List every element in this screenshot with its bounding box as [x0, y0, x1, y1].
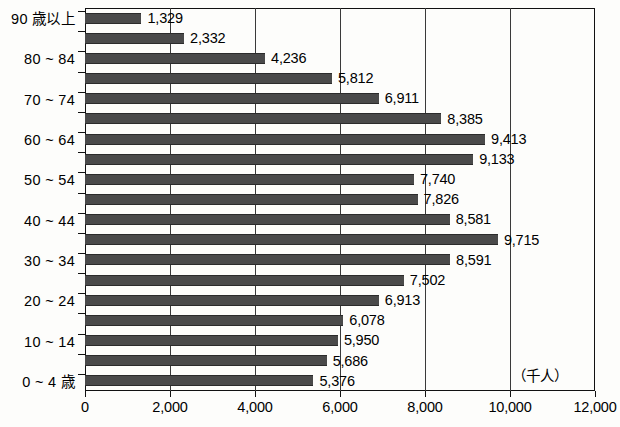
x-axis-label: 6,000: [322, 400, 357, 415]
bar-value-label: 5,376: [319, 374, 354, 389]
bar: [85, 295, 379, 306]
bar-row: 9,715: [85, 230, 620, 250]
bar-row: 7,740: [85, 169, 620, 189]
bar-value-label: 7,502: [410, 273, 445, 288]
bar: [85, 174, 414, 185]
y-axis-label: 50 ~ 54: [24, 173, 75, 188]
x-axis-tick: [170, 391, 171, 397]
bar: [85, 134, 485, 145]
y-axis-tick: [78, 374, 85, 375]
x-axis-tick: [510, 391, 511, 397]
bar: [85, 53, 265, 64]
bar-value-label: 8,385: [447, 112, 482, 127]
bar-row: 6,911: [85, 89, 620, 109]
bar-value-label: 7,740: [420, 172, 455, 187]
y-axis-label: 80 ~ 84: [24, 52, 75, 67]
bar-value-label: 5,686: [333, 354, 368, 369]
bar-value-label: 9,133: [479, 152, 514, 167]
bar: [85, 335, 338, 346]
bar: [85, 254, 450, 265]
bar-row: 4,236: [85, 48, 620, 68]
y-axis-tick: [78, 11, 85, 12]
y-axis-tick: [78, 72, 85, 73]
unit-annotation: （千人）: [512, 369, 568, 384]
y-axis-tick: [78, 92, 85, 93]
bar-value-label: 6,911: [385, 91, 419, 106]
y-axis-tick: [78, 112, 85, 113]
bar-value-label: 9,715: [504, 233, 539, 248]
bar-row: 7,502: [85, 270, 620, 290]
y-axis-tick: [78, 31, 85, 32]
bar: [85, 154, 473, 165]
x-axis-label: 2,000: [152, 400, 187, 415]
bar-value-label: 4,236: [271, 51, 306, 66]
bar: [85, 113, 441, 124]
bar: [85, 355, 327, 366]
x-axis-label: 4,000: [237, 400, 272, 415]
bar-row: 6,078: [85, 310, 620, 330]
x-axis-tick: [425, 391, 426, 397]
y-axis-tick: [78, 193, 85, 194]
bar: [85, 13, 141, 24]
bar: [85, 214, 450, 225]
bar-row: 8,591: [85, 250, 620, 270]
y-axis-tick: [78, 132, 85, 133]
y-axis-tick: [78, 293, 85, 294]
bar-row: 1,329: [85, 8, 620, 28]
x-axis-tick: [255, 391, 256, 397]
bar-value-label: 9,413: [491, 132, 526, 147]
bar-row: 5,950: [85, 331, 620, 351]
x-axis-tick: [85, 391, 86, 397]
y-axis-tick: [78, 354, 85, 355]
bars-layer: 1,3292,3324,2365,8126,9118,3859,4139,133…: [85, 8, 595, 391]
bar: [85, 275, 404, 286]
y-axis-label: 60 ~ 64: [24, 133, 75, 148]
bar: [85, 33, 184, 44]
x-axis-label: 12,000: [573, 400, 616, 415]
y-axis-tick: [78, 334, 85, 335]
bar-row: 7,826: [85, 189, 620, 209]
y-axis-label: 0 ~ 4 歳: [22, 375, 75, 390]
y-axis-label: 10 ~ 14: [24, 335, 75, 350]
x-axis-label: 8,000: [407, 400, 442, 415]
y-axis-tick: [78, 253, 85, 254]
bar-value-label: 8,581: [456, 212, 491, 227]
y-axis-label: 70 ~ 74: [24, 93, 75, 108]
bar-row: 8,581: [85, 210, 620, 230]
bar-row: 6,913: [85, 290, 620, 310]
x-axis-tick: [340, 391, 341, 397]
bar: [85, 73, 332, 84]
bar: [85, 194, 418, 205]
x-axis-label: 10,000: [488, 400, 531, 415]
bar-row: 2,332: [85, 28, 620, 48]
bar-value-label: 5,812: [338, 71, 373, 86]
bar-value-label: 7,826: [424, 192, 459, 207]
age-distribution-bar-chart: 1,3292,3324,2365,8126,9118,3859,4139,133…: [0, 0, 620, 427]
y-axis-tick: [78, 313, 85, 314]
bar-row: 5,812: [85, 68, 620, 88]
y-axis: 90 歳以上80 ~ 8470 ~ 7460 ~ 6450 ~ 5440 ~ 4…: [0, 8, 85, 391]
x-axis: 02,0004,0006,0008,00010,00012,000: [0, 391, 620, 427]
bar-value-label: 5,950: [344, 333, 379, 348]
bar-row: 9,133: [85, 149, 620, 169]
bar-value-label: 6,913: [385, 293, 420, 308]
bar: [85, 93, 379, 104]
y-axis-label: 90 歳以上: [11, 12, 75, 27]
bar-value-label: 1,329: [147, 11, 182, 26]
y-axis-tick: [78, 152, 85, 153]
bar-value-label: 8,591: [456, 253, 491, 268]
y-axis-tick: [78, 51, 85, 52]
bar-value-label: 6,078: [349, 313, 384, 328]
y-axis-tick: [78, 172, 85, 173]
bar: [85, 375, 313, 386]
y-axis-label: 20 ~ 24: [24, 294, 75, 309]
y-axis-tick: [78, 233, 85, 234]
bar-row: 9,413: [85, 129, 620, 149]
bar: [85, 315, 343, 326]
bar-value-label: 2,332: [190, 31, 225, 46]
x-axis-label: 0: [81, 400, 89, 415]
bar-row: 8,385: [85, 109, 620, 129]
y-axis-label: 40 ~ 44: [24, 214, 75, 229]
bar: [85, 234, 498, 245]
x-axis-tick: [595, 391, 596, 397]
